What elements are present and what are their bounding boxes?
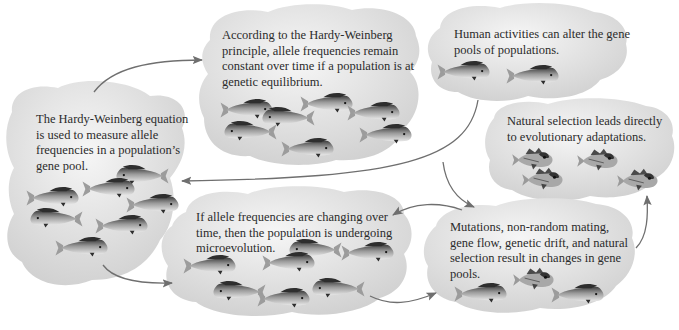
node-text-mechanisms: Mutations, non-random mating, gene flow,… [450,220,630,282]
arrow-mechanisms-to-selection [636,196,647,248]
arrow-human-to-mechanisms [443,162,474,207]
node-text-natural-selection: Natural selection leads directly to evol… [507,114,672,145]
node-text-hw-equation: The Hardy-Weinberg equation is used to m… [36,112,196,174]
node-text-microevolution: If allele frequencies are changing over … [196,210,396,257]
node-text-human-activities: Human activities can alter the gene pool… [454,27,634,58]
concept-map: The Hardy-Weinberg equation is used to m… [0,0,679,330]
node-text-hw-principle: According to the Hardy-Weinberg principl… [222,28,418,90]
